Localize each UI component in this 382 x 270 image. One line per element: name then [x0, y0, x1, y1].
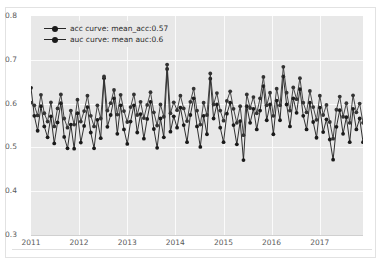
data-point-marker	[331, 137, 335, 141]
data-point-marker	[89, 114, 93, 118]
data-point-marker	[96, 103, 100, 107]
data-point-marker	[92, 124, 96, 128]
data-point-marker	[351, 93, 355, 97]
data-point-marker	[248, 106, 252, 110]
data-point-marker	[235, 142, 239, 146]
data-point-marker	[99, 117, 103, 121]
data-point-marker	[265, 118, 269, 122]
data-point-marker	[225, 112, 229, 116]
data-point-marker	[112, 88, 116, 92]
data-point-marker	[159, 117, 163, 121]
chart-figure: 0.80.70.60.50.40.3 201120122013201420152…	[5, 7, 376, 258]
data-point-marker	[258, 109, 262, 113]
x-axis-tick-label: 2012	[62, 239, 96, 247]
data-point-marker	[208, 71, 212, 75]
data-point-marker	[115, 132, 119, 136]
data-point-marker	[56, 121, 60, 125]
data-point-marker	[238, 104, 242, 108]
data-point-marker	[185, 140, 189, 144]
data-point-marker	[281, 65, 285, 69]
legend-item-acc: acc curve: mean_acc:0.57	[44, 23, 168, 34]
data-point-marker	[198, 145, 202, 149]
data-point-marker	[155, 124, 159, 128]
x-axis-tick-label: 2014	[158, 239, 192, 247]
data-point-marker	[252, 107, 256, 111]
data-point-marker	[245, 93, 249, 97]
data-point-marker	[169, 111, 173, 115]
data-point-marker	[179, 106, 183, 110]
data-point-marker	[188, 100, 192, 104]
data-point-marker	[271, 132, 275, 136]
data-point-marker	[145, 103, 149, 107]
data-point-marker	[321, 130, 325, 134]
data-point-marker	[315, 118, 319, 122]
data-point-marker	[59, 93, 63, 97]
data-point-marker	[195, 109, 199, 113]
data-point-marker	[348, 140, 352, 144]
data-point-marker	[139, 100, 143, 104]
data-point-marker	[295, 111, 299, 115]
data-point-marker	[135, 113, 139, 117]
data-point-marker	[268, 91, 272, 95]
data-point-marker	[212, 117, 216, 121]
data-point-marker	[155, 146, 159, 150]
data-point-marker	[301, 114, 305, 118]
data-point-marker	[89, 131, 93, 135]
data-point-marker	[345, 115, 349, 119]
data-point-marker	[328, 120, 332, 124]
data-point-marker	[202, 114, 206, 118]
data-point-marker	[52, 142, 56, 146]
data-point-marker	[198, 123, 202, 127]
data-point-marker	[222, 119, 226, 123]
chart-canvas	[31, 16, 363, 235]
data-point-marker	[335, 125, 339, 129]
data-point-marker	[169, 130, 173, 134]
data-point-marker	[175, 108, 179, 112]
data-point-marker	[305, 110, 309, 114]
data-point-marker	[145, 117, 149, 121]
x-axis-tick-label: 2011	[14, 239, 48, 247]
data-point-marker	[301, 101, 305, 105]
data-point-marker	[318, 94, 322, 98]
data-point-marker	[32, 114, 36, 118]
data-point-marker	[285, 91, 289, 95]
data-point-marker	[354, 110, 358, 114]
data-point-marker	[56, 107, 60, 111]
data-point-marker	[159, 103, 163, 107]
data-point-marker	[222, 140, 226, 144]
data-point-marker	[79, 141, 83, 145]
data-point-marker	[228, 101, 232, 105]
data-point-marker	[248, 121, 252, 125]
data-point-marker	[275, 87, 279, 91]
data-point-marker	[265, 103, 269, 107]
legend-label-acc: acc curve: mean_acc:0.57	[70, 24, 168, 34]
data-point-marker	[99, 136, 103, 140]
data-point-marker	[218, 126, 222, 130]
data-point-marker	[172, 114, 176, 118]
y-axis-tick-label: 0.4	[0, 187, 17, 195]
data-point-marker	[66, 126, 70, 130]
data-point-marker	[122, 109, 126, 113]
data-point-marker	[162, 115, 166, 119]
data-point-marker	[175, 126, 179, 130]
data-point-marker	[49, 100, 53, 104]
data-point-marker	[109, 113, 113, 117]
data-point-marker	[278, 118, 282, 122]
legend-label-auc: auc curve: mean auc:0.6	[70, 35, 163, 45]
data-point-marker	[62, 117, 66, 121]
data-point-marker	[122, 128, 126, 132]
data-point-marker	[76, 98, 80, 102]
x-axis-tick-label: 2017	[303, 239, 337, 247]
data-point-marker	[311, 120, 315, 124]
data-point-marker	[125, 142, 129, 146]
data-point-marker	[36, 114, 40, 118]
data-point-marker	[308, 89, 312, 93]
data-point-marker	[69, 109, 73, 113]
series-acc	[31, 67, 363, 162]
data-point-marker	[228, 89, 232, 93]
x-axis-line	[31, 235, 363, 236]
data-point-marker	[235, 121, 239, 125]
series-line	[31, 69, 363, 160]
data-point-marker	[358, 102, 362, 106]
data-point-marker	[328, 138, 332, 142]
